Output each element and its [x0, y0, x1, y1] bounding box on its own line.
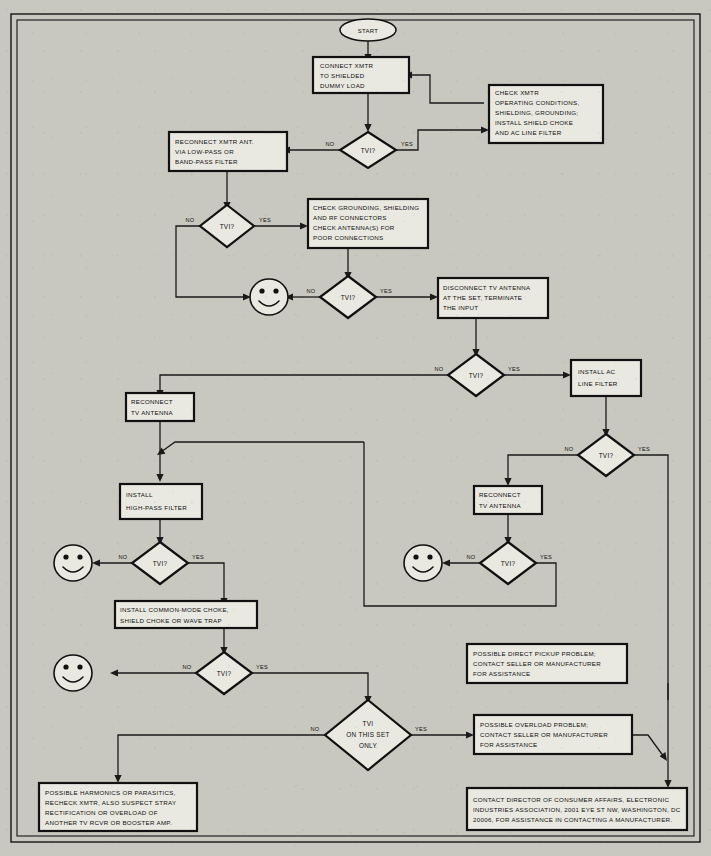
- decision-8-label: TVI?: [217, 670, 232, 677]
- node-install-common-mode-choke[interactable]: INSTALL COMMON-MODE CHOKE, SHIELD CHOKE …: [115, 601, 257, 628]
- decision-1-no-label: NO: [326, 141, 335, 147]
- smiley-3-eye-left: [413, 554, 418, 559]
- connect-dummy-load-line-3: DUMMY LOAD: [320, 82, 365, 89]
- smiley-4-eye-right: [77, 664, 82, 669]
- decision-final-line-1: TVI: [363, 720, 374, 727]
- smiley-1-face: [250, 279, 288, 315]
- reconnect-tv-antenna-left-line-2: TV ANTENNA: [131, 409, 173, 416]
- decision-3-label: TVI?: [341, 294, 356, 301]
- check-xmtr-line-1: CHECK XMTR: [495, 89, 539, 96]
- edge-d4-no-to-reconnect-left: [160, 375, 448, 393]
- possible-overload-line-1: POSSIBLE OVERLOAD PROBLEM;: [480, 721, 588, 728]
- disconnect-tv-antenna-line-2: AT THE SET, TERMINATE: [443, 294, 522, 301]
- arrowhead-reconnectleft-highpass: [156, 474, 163, 482]
- edge-d5-yes-to-contact-director: [634, 455, 668, 783]
- edge-d7-yes-loop: [364, 442, 556, 606]
- decision-4-no-label: NO: [435, 366, 444, 372]
- decision-5-no-label: NO: [565, 446, 574, 452]
- check-xmtr-line-3: SHIELDING, GROUNDING;: [495, 109, 578, 116]
- flowchart-page: START CONNECT XMTR TO SHIELDED DUMMY LOA…: [0, 0, 711, 856]
- possible-harmonics-line-2: RECHECK XMTR, ALSO SUSPECT STRAY: [45, 799, 176, 806]
- node-connect-dummy-load[interactable]: CONNECT XMTR TO SHIELDED DUMMY LOAD: [313, 57, 409, 93]
- smiley-2-eye-right: [77, 554, 82, 559]
- disconnect-tv-antenna-line-1: DISCONNECT TV ANTENNA: [443, 284, 531, 291]
- arrowhead-d5-reconnectright: [504, 478, 511, 486]
- decision-7-no-label: NO: [467, 554, 476, 560]
- node-reconnect-xmtr-ant[interactable]: RECONNECT XMTR ANT. VIA LOW-PASS OR BAND…: [169, 132, 287, 171]
- smiley-3-face: [404, 545, 442, 581]
- smiley-2-face: [54, 545, 92, 581]
- arrowhead-d5-contactdirector: [664, 780, 671, 788]
- arrowhead-final-harmonics: [114, 775, 121, 783]
- arrowhead-d6-smiley2: [92, 559, 100, 566]
- contact-director-line-1: CONTACT DIRECTOR OF CONSUMER AFFAIRS, EL…: [473, 796, 669, 803]
- decision-8-yes-label: YES: [256, 664, 268, 670]
- edge-d6-yes-to-commonmode: [188, 563, 224, 601]
- edge-final-no-to-harmonics: [118, 735, 325, 778]
- edge-d1-yes-to-checkxmtr: [396, 130, 484, 150]
- decision-5-label: TVI?: [599, 452, 614, 459]
- connect-dummy-load-line-2: TO SHIELDED: [320, 72, 365, 79]
- possible-overload-line-3: FOR ASSISTANCE: [480, 741, 537, 748]
- node-disconnect-tv-antenna[interactable]: DISCONNECT TV ANTENNA AT THE SET, TERMIN…: [438, 278, 548, 318]
- arrowhead-d2-checkgrounding: [300, 222, 308, 229]
- check-grounding-line-1: CHECK GROUNDING, SHIELDING: [313, 204, 419, 211]
- reconnect-tv-antenna-right-line-2: TV ANTENNA: [479, 502, 521, 509]
- connect-dummy-load-line-1: CONNECT XMTR: [320, 62, 374, 69]
- decision-final-line-3: ONLY: [359, 742, 378, 749]
- edge-merge-into-highpass: [161, 442, 364, 452]
- decision-2-yes-label: YES: [259, 217, 271, 223]
- smiley-4-eye-left: [63, 664, 68, 669]
- arrowhead-merge-highpass: [157, 448, 165, 455]
- decision-2-no-label: NO: [186, 217, 195, 223]
- check-grounding-line-3: CHECK ANTENNA(S) FOR: [313, 224, 395, 231]
- decision-final-yes-label: YES: [415, 726, 427, 732]
- node-install-high-pass-filter[interactable]: INSTALL HIGH-PASS FILTER: [120, 484, 202, 519]
- decision-final-line-2: ON THIS SET: [346, 731, 389, 738]
- install-ac-line-filter-line-1: INSTALL AC: [578, 368, 616, 375]
- check-xmtr-line-5: AND AC LINE FILTER: [495, 129, 562, 136]
- arrowhead-d8-smiley4: [110, 669, 118, 676]
- node-reconnect-tv-antenna-right[interactable]: RECONNECT TV ANTENNA: [474, 486, 542, 514]
- decision-6-no-label: NO: [119, 554, 128, 560]
- possible-direct-pickup-line-2: CONTACT SELLER OR MANUFACTURER: [473, 660, 601, 667]
- arrowhead-d4-installac: [563, 371, 571, 378]
- install-ac-line-filter-line-2: LINE FILTER: [578, 380, 618, 387]
- decision-6-yes-label: YES: [192, 554, 204, 560]
- decision-7-yes-label: YES: [540, 554, 552, 560]
- node-possible-overload[interactable]: POSSIBLE OVERLOAD PROBLEM; CONTACT SELLE…: [474, 715, 632, 754]
- decision-6-label: TVI?: [153, 560, 168, 567]
- arrowhead-d7-smiley3: [442, 559, 450, 566]
- check-xmtr-line-4: INSTALL SHIELD CHOKE: [495, 119, 573, 126]
- node-install-ac-line-filter[interactable]: INSTALL AC LINE FILTER: [571, 360, 641, 396]
- decision-1-label: TVI?: [361, 147, 376, 154]
- reconnect-tv-antenna-left-line-1: RECONNECT: [131, 398, 173, 405]
- node-contact-director[interactable]: CONTACT DIRECTOR OF CONSUMER AFFAIRS, EL…: [467, 788, 687, 830]
- possible-direct-pickup-line-3: FOR ASSISTANCE: [473, 670, 530, 677]
- node-smiley-2: [54, 545, 92, 581]
- node-check-xmtr[interactable]: CHECK XMTR OPERATING CONDITIONS, SHIELDI…: [489, 85, 603, 143]
- node-smiley-4: [54, 655, 92, 691]
- arrowhead-d1-checkxmtr: [481, 126, 489, 133]
- node-check-grounding[interactable]: CHECK GROUNDING, SHIELDING AND RF CONNEC…: [308, 199, 428, 248]
- arrowhead-d3-disconnect: [430, 293, 438, 300]
- node-decision-final[interactable]: TVI ON THIS SET ONLY NO YES: [311, 700, 428, 770]
- node-reconnect-tv-antenna-left[interactable]: RECONNECT TV ANTENNA: [126, 393, 194, 421]
- install-high-pass-filter-line-1: INSTALL: [126, 491, 153, 498]
- edge-d8-yes-to-final: [252, 673, 368, 699]
- decision-3-yes-label: YES: [380, 288, 392, 294]
- reconnect-xmtr-ant-line-1: RECONNECT XMTR ANT.: [175, 138, 254, 145]
- possible-harmonics-line-3: RECTIFICATION OR OVERLOAD OF: [45, 809, 158, 816]
- decision-4-label: TVI?: [469, 372, 484, 379]
- install-high-pass-filter-box: [120, 484, 202, 519]
- node-possible-harmonics[interactable]: POSSIBLE HARMONICS OR PARASITICS, RECHEC…: [39, 783, 197, 831]
- node-possible-direct-pickup[interactable]: POSSIBLE DIRECT PICKUP PROBLEM; CONTACT …: [467, 644, 627, 683]
- node-start[interactable]: START: [340, 19, 396, 41]
- edge-checkxmtr-to-connect: [409, 75, 484, 103]
- disconnect-tv-antenna-line-3: THE INPUT: [443, 304, 478, 311]
- install-common-mode-choke-line-1: INSTALL COMMON-MODE CHOKE,: [120, 606, 229, 613]
- edge-d5-no-to-reconnect-right: [508, 455, 578, 481]
- node-smiley-1: [250, 279, 288, 315]
- decision-1-yes-label: YES: [401, 141, 413, 147]
- smiley-2-eye-left: [63, 554, 68, 559]
